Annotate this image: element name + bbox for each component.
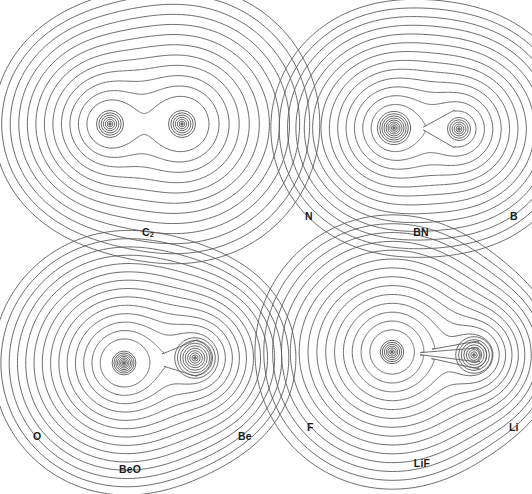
molecule-label-bn: BN xyxy=(413,227,429,238)
molecule-label-subscript-c2: 2 xyxy=(150,230,154,239)
molecule-label-text-c2: C xyxy=(142,226,150,238)
contour-group-beo xyxy=(0,230,296,494)
molecule-label-text-beo: BeO xyxy=(119,463,141,475)
atom-label-right-bn: B xyxy=(510,211,518,222)
molecule-label-text-lif: LiF xyxy=(414,457,430,469)
molecule-label-c2: C2 xyxy=(142,227,154,239)
molecule-label-lif: LiF xyxy=(414,458,430,469)
molecule-label-text-bn: BN xyxy=(413,226,429,238)
atom-label-right-lif: Li xyxy=(509,422,519,433)
atom-label-left-bn: N xyxy=(305,211,313,222)
contour-group-c2 xyxy=(0,0,320,264)
contour-canvas xyxy=(0,0,532,494)
molecule-label-beo: BeO xyxy=(119,464,141,475)
atom-label-left-beo: O xyxy=(33,431,41,442)
electron-density-figure: C2NBBNOBeBeOFLiLiF xyxy=(0,0,532,494)
atom-label-left-lif: F xyxy=(307,422,314,433)
atom-label-right-beo: Be xyxy=(238,431,252,442)
